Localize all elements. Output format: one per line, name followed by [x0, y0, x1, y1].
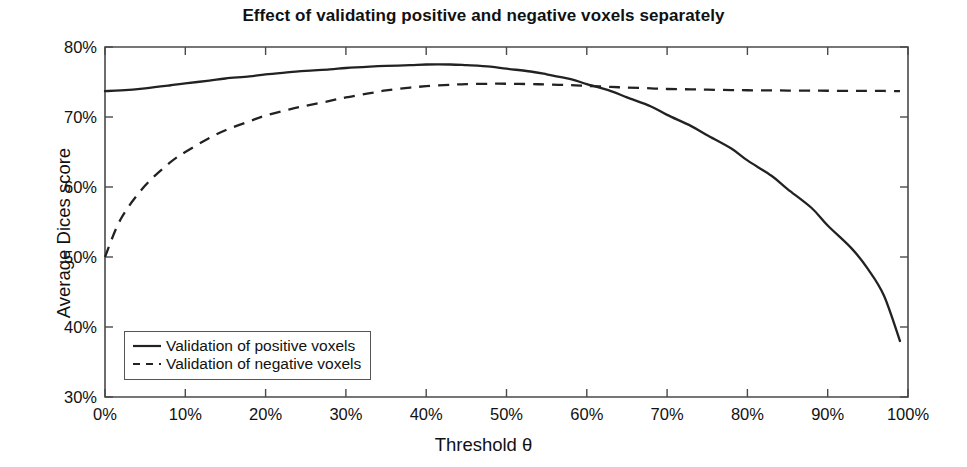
x-axis-label: Threshold θ: [0, 434, 967, 456]
x-tick-label: 90%: [811, 405, 844, 424]
x-tick-label: 100%: [887, 405, 929, 424]
legend-solid-line-icon: [132, 340, 162, 352]
x-tick-label: 60%: [570, 405, 603, 424]
series-line-1: [105, 64, 900, 341]
data-series: [105, 64, 900, 341]
legend-dashed-line-icon: [132, 358, 162, 370]
x-tick-label: 10%: [169, 405, 202, 424]
y-tick-label: 30%: [9, 388, 97, 407]
x-tick-label: 20%: [249, 405, 282, 424]
x-tick-label: 80%: [731, 405, 764, 424]
legend-item-label: Validation of negative voxels: [166, 356, 361, 372]
legend-item: Validation of positive voxels: [132, 337, 361, 355]
x-tick-label: 50%: [490, 405, 523, 424]
x-tick-label: 0%: [93, 405, 117, 424]
y-tick-label: 80%: [9, 38, 97, 57]
chart-figure: Effect of validating positive and negati…: [0, 0, 967, 467]
series-line-2: [105, 84, 900, 257]
chart-legend: Validation of positive voxelsValidation …: [124, 331, 371, 380]
plot-area: [0, 0, 967, 467]
legend-item-label: Validation of positive voxels: [166, 338, 355, 354]
legend-item: Validation of negative voxels: [132, 355, 361, 373]
x-tick-label: 40%: [410, 405, 443, 424]
x-tick-label: 30%: [329, 405, 362, 424]
x-tick-label: 70%: [651, 405, 684, 424]
y-axis-label: Average Dices score: [53, 103, 75, 363]
